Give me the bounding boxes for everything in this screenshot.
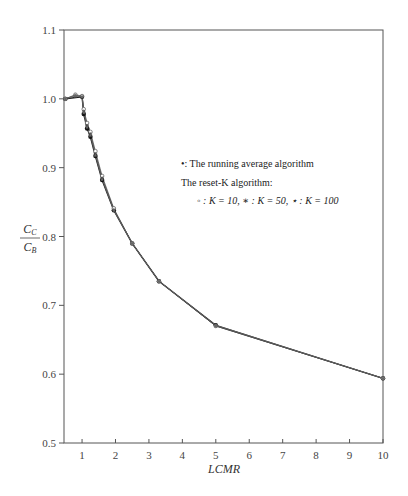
y-axis-title-denominator: CB: [24, 240, 37, 255]
x-axis-title: LCMR: [207, 462, 241, 476]
y-den-sub: B: [32, 246, 37, 255]
x-tick-label: 1: [79, 449, 85, 461]
y-tick-label: 1.0: [42, 93, 56, 105]
y-tick-label: 0.8: [42, 231, 56, 243]
y-tick-label: 0.7: [42, 299, 56, 311]
series-line: [65, 97, 383, 379]
x-tick-label: 5: [213, 449, 219, 461]
series-lines: [65, 95, 383, 379]
x-tick-label: 2: [113, 449, 119, 461]
y-tick-label: 0.6: [42, 368, 56, 380]
x-tick-label: 3: [146, 449, 152, 461]
x-tick-label: 6: [246, 449, 252, 461]
legend-running-average: •: The running average algorithm: [181, 158, 314, 169]
x-tick-label: 4: [180, 449, 186, 461]
x-tick-label: 8: [313, 449, 319, 461]
y-axis-title: CC CB: [20, 222, 40, 255]
chart: 12345678910 0.50.60.70.80.91.01.1 LCMR C…: [0, 0, 408, 496]
x-tick-label: 9: [347, 449, 353, 461]
legend: •: The running average algorithm The res…: [181, 158, 339, 206]
y-axis-ticks: 0.50.60.70.80.91.01.1: [42, 24, 64, 449]
legend-reset-k-entries: ◦ : K = 10, ∗ : K = 50, ⋆ : K = 100: [197, 195, 339, 206]
y-tick-label: 0.5: [42, 437, 56, 449]
y-num-sub: C: [31, 228, 37, 237]
plot-area-border: [64, 30, 383, 443]
series-line: [65, 95, 383, 378]
plot-frame: [64, 30, 383, 443]
x-tick-label: 7: [280, 449, 286, 461]
y-axis-title-numerator: CC: [23, 222, 37, 237]
series-markers: [63, 93, 385, 381]
x-axis-ticks: 12345678910: [79, 439, 389, 461]
series-line: [65, 96, 383, 378]
x-tick-label: 10: [378, 449, 390, 461]
series-line: [65, 95, 383, 379]
y-tick-label: 1.1: [42, 24, 56, 36]
y-tick-label: 0.9: [42, 162, 56, 174]
legend-reset-k-title: The reset-K algorithm:: [181, 177, 273, 188]
